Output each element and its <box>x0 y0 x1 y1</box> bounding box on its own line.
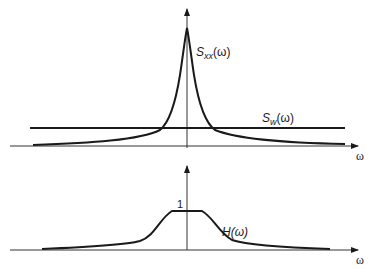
upper-x-axis-label: ω <box>356 149 364 163</box>
noise-spectrum-label: Sw(ω) <box>262 111 294 127</box>
lower-x-axis-label: ω <box>356 253 364 267</box>
lower-plot: 1 H(ω) ω <box>10 166 364 267</box>
filter-response-label: H(ω) <box>222 225 248 239</box>
spectral-density-diagram: Sxx(ω) Sw(ω) ω 1 H(ω) ω <box>0 0 370 269</box>
upper-plot: Sxx(ω) Sw(ω) ω <box>10 9 364 163</box>
filter-response-curve <box>42 211 330 249</box>
plateau-value-label: 1 <box>177 198 183 210</box>
signal-spectrum-label: Sxx(ω) <box>196 45 230 61</box>
